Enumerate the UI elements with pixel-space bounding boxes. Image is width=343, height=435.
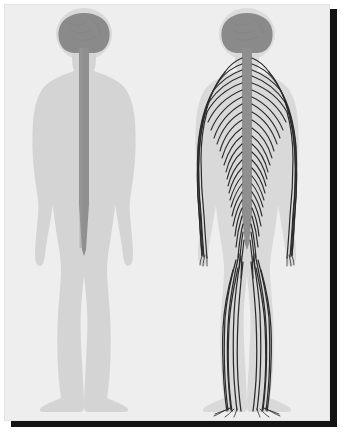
- illustration-page: [0, 0, 343, 435]
- page-shadow-right: [329, 9, 337, 427]
- nervous-system-diagram: [4, 4, 330, 421]
- illustration-plate: [4, 4, 330, 421]
